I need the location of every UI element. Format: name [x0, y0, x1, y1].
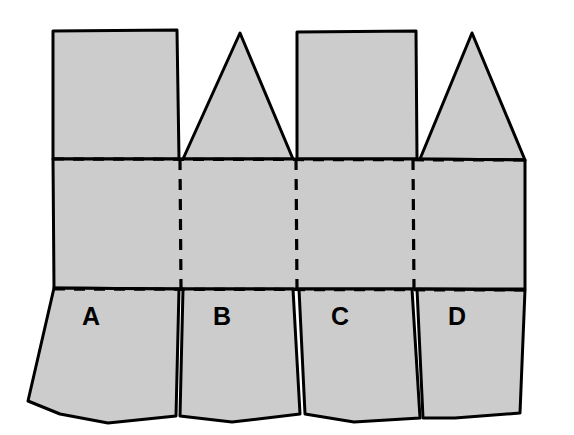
bottom-flap-b	[180, 289, 300, 422]
panel-label-b: B	[213, 302, 231, 330]
top-flap-rect-2	[297, 31, 417, 159]
center-band	[53, 159, 525, 289]
bottom-flap-c	[299, 289, 420, 422]
diagram-root: A B C D	[0, 0, 574, 435]
bottom-flap-d	[417, 289, 525, 418]
panel-label-c: C	[331, 302, 349, 330]
panel-label-d: D	[448, 302, 466, 330]
top-flap-rect-1	[53, 30, 179, 159]
bottom-flap-a	[28, 288, 179, 423]
panel-label-a: A	[82, 302, 100, 330]
box-net-diagram: A B C D	[0, 0, 574, 435]
